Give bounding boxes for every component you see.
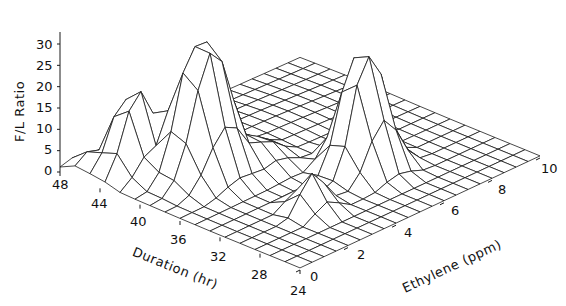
z-tick-30: 30 bbox=[36, 38, 53, 51]
y-tick-10: 10 bbox=[541, 162, 558, 175]
z-axis-title: F/L Ratio bbox=[12, 81, 27, 142]
x-tick-48: 48 bbox=[52, 178, 69, 191]
y-tick-4: 4 bbox=[404, 226, 412, 239]
x-tick-44: 44 bbox=[91, 197, 108, 210]
z-tick-15: 15 bbox=[36, 101, 53, 114]
z-tick-10: 10 bbox=[36, 122, 53, 135]
y-tick-8: 8 bbox=[498, 183, 506, 196]
x-tick-28: 28 bbox=[251, 268, 268, 281]
x-tick-32: 32 bbox=[210, 250, 227, 263]
x-tick-36: 36 bbox=[170, 233, 187, 246]
x-tick-24: 24 bbox=[290, 284, 307, 297]
y-tick-6: 6 bbox=[451, 204, 459, 217]
z-tick-5: 5 bbox=[44, 143, 52, 156]
z-tick-20: 20 bbox=[36, 80, 53, 93]
y-tick-0: 0 bbox=[310, 270, 318, 283]
y-tick-2: 2 bbox=[357, 248, 365, 261]
z-tick-0: 0 bbox=[44, 164, 52, 177]
x-tick-40: 40 bbox=[130, 215, 147, 228]
z-tick-25: 25 bbox=[36, 59, 53, 72]
wireframe-surface bbox=[60, 42, 540, 268]
